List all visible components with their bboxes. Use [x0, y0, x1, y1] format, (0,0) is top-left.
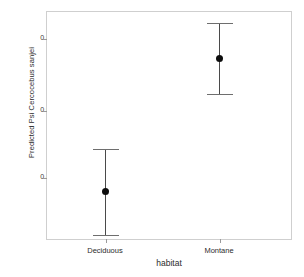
x-tick-mark-montane: [220, 239, 221, 243]
errorbar-cap-lower-deciduous: [93, 235, 119, 236]
x-tick-label-deciduous: Deciduous: [60, 246, 150, 255]
errorbar-cap-upper-montane: [207, 23, 233, 24]
data-point-montane: [216, 55, 223, 62]
plot-area: [46, 11, 292, 240]
y-tick-mark-0.4: [43, 178, 47, 179]
y-tick-mark-0.8: [43, 39, 47, 40]
y-tick-mark-0.6: [43, 111, 47, 112]
chart-figure: Predicted Psi Cercocebus sanjei 0.8 0.6 …: [0, 0, 304, 277]
x-tick-label-montane: Montane: [174, 246, 264, 255]
x-tick-mark-deciduous: [106, 239, 107, 243]
errorbar-cap-upper-deciduous: [93, 149, 119, 150]
x-axis-title: habitat: [46, 258, 292, 268]
data-point-deciduous: [102, 188, 109, 195]
errorbar-cap-lower-montane: [207, 94, 233, 95]
